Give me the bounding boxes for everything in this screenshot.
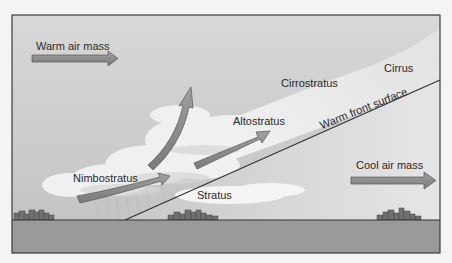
label-stratus: Stratus bbox=[197, 189, 232, 201]
label-cirrostratus: Cirrostratus bbox=[281, 77, 338, 89]
label-cirrus: Cirrus bbox=[384, 62, 413, 74]
label-altostratus: Altostratus bbox=[233, 115, 285, 127]
label-cool-air-mass: Cool air mass bbox=[356, 159, 423, 171]
label-nimbostratus: Nimbostratus bbox=[73, 172, 138, 184]
ground bbox=[12, 220, 440, 253]
label-warm-air-mass: Warm air mass bbox=[36, 40, 110, 52]
